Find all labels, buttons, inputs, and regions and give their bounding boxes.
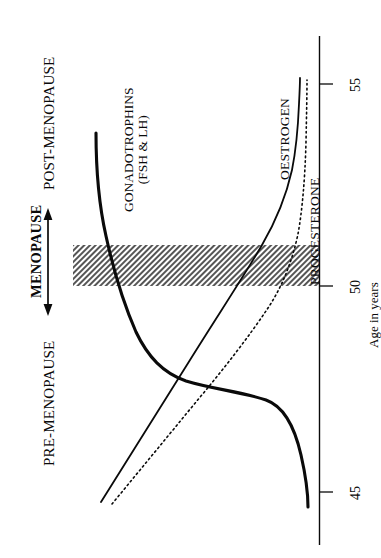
axis-title-age: Age in years (367, 282, 381, 348)
axis-tick-label-50: 50 (349, 280, 364, 294)
curve-label-oestrogen: OESTROGEN (278, 98, 292, 180)
menopause-hormone-chart: POST-MENOPAUSE MENOPAUSE PRE-MENOPAUSE G… (0, 0, 381, 558)
stage-label-pre-menopause: PRE-MENOPAUSE (42, 341, 58, 466)
stage-label-post-menopause: POST-MENOPAUSE (42, 57, 58, 190)
curve-label-gonadotrophins: GONADOTROPHINS (FSH & LH) (122, 87, 150, 212)
axis-tick-label-45: 45 (349, 486, 364, 500)
curve-label-progesterone: PROGESTERONE (308, 178, 322, 285)
gonadotrophins-line1: GONADOTROPHINS (122, 87, 136, 212)
axis-tick-label-55: 55 (349, 78, 364, 92)
menopause-double-arrow (44, 208, 53, 316)
stage-label-menopause: MENOPAUSE (29, 205, 44, 298)
gonadotrophins-line2: (FSH & LH) (136, 87, 150, 212)
